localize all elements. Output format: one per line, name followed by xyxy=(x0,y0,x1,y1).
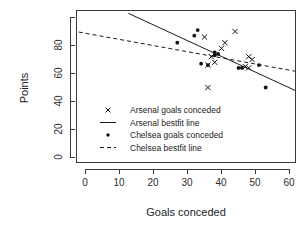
x-tick-label-30: 30 xyxy=(181,177,193,188)
point-dot-1-2 xyxy=(196,28,200,32)
legend-dot-icon xyxy=(106,133,109,136)
point-dot-1-1 xyxy=(192,34,196,38)
x-tick-label-40: 40 xyxy=(215,177,227,188)
y-tick-label-40: 40 xyxy=(53,95,64,107)
y-axis: 80 60 40 20 0 xyxy=(53,17,75,160)
point-cross-0-7 xyxy=(233,29,238,34)
point-dot-1-6 xyxy=(216,52,220,56)
chart-legend: Arsenal goals concededArsenal bestfit li… xyxy=(100,105,223,153)
point-dot-1-7 xyxy=(206,63,210,67)
point-cross-0-0 xyxy=(205,85,210,90)
point-dot-1-10 xyxy=(257,63,261,67)
scatter-chart: 0 10 20 30 40 50 60 80 60 40 20 0 Goals … xyxy=(0,0,308,232)
point-cross-0-6 xyxy=(219,46,224,51)
legend-label-2: Chelsea goals conceded xyxy=(130,130,223,140)
point-dot-1-9 xyxy=(240,66,244,70)
y-tick-label-80: 80 xyxy=(53,39,64,51)
bestfit-line-0 xyxy=(128,13,296,91)
x-tick-label-50: 50 xyxy=(249,177,261,188)
point-dot-1-11 xyxy=(264,86,268,90)
legend-label-3: Chelsea bestfit line xyxy=(130,143,202,153)
point-dot-1-0 xyxy=(175,41,179,45)
y-axis-title: Points xyxy=(18,72,30,103)
x-axis: 0 10 20 30 40 50 60 xyxy=(82,169,295,188)
x-tick-label-10: 10 xyxy=(113,177,125,188)
bestfit-lines xyxy=(72,13,296,91)
data-points xyxy=(175,28,267,90)
y-tick-label-20: 20 xyxy=(53,123,64,135)
point-cross-0-3 xyxy=(212,60,217,65)
point-dot-1-5 xyxy=(213,53,217,57)
point-cross-0-4 xyxy=(202,35,207,40)
point-cross-0-9 xyxy=(250,57,255,62)
x-tick-label-0: 0 xyxy=(82,177,88,188)
point-dot-1-8 xyxy=(237,66,241,70)
x-tick-label-60: 60 xyxy=(283,177,295,188)
x-tick-label-20: 20 xyxy=(147,177,159,188)
plot-canvas: 0 10 20 30 40 50 60 80 60 40 20 0 Goals … xyxy=(0,0,308,232)
y-tick-label-60: 60 xyxy=(53,67,64,79)
legend-label-1: Arsenal bestfit line xyxy=(130,118,200,128)
bestfit-line-1 xyxy=(72,31,296,72)
legend-label-0: Arsenal goals conceded xyxy=(130,105,221,115)
point-cross-0-5 xyxy=(222,40,227,45)
point-dot-1-3 xyxy=(199,62,203,66)
x-axis-title: Goals conceded xyxy=(146,206,226,218)
y-tick-label-0: 0 xyxy=(53,154,64,160)
